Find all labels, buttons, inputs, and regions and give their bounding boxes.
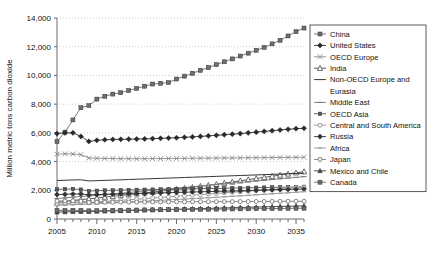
- x-tick-label: 2005: [48, 227, 66, 236]
- data-point-marker: [71, 187, 74, 190]
- data-point-marker: [278, 38, 282, 42]
- data-point-marker: [103, 200, 107, 204]
- data-point-marker: [79, 199, 83, 203]
- data-point-marker: [159, 208, 163, 212]
- data-point-marker: [167, 81, 171, 85]
- legend-label: Central and South America: [330, 121, 422, 130]
- legend-label: Non-OECD Europe and: [330, 75, 410, 84]
- data-point-marker: [182, 74, 186, 78]
- y-axis-title: Million metric tons carbon dioxide: [5, 59, 14, 178]
- data-point-marker: [238, 200, 242, 204]
- data-point-marker: [238, 131, 243, 136]
- series-line: [57, 128, 304, 141]
- data-point-marker: [159, 200, 163, 204]
- data-point-marker: [159, 195, 163, 199]
- x-tick-label: 2030: [247, 227, 265, 236]
- data-point-marker: [206, 207, 210, 211]
- data-point-marker: [102, 137, 107, 142]
- series-oecd-europe: [55, 151, 307, 161]
- data-point-marker: [174, 135, 179, 140]
- data-point-marker: [270, 207, 274, 211]
- data-point-marker: [206, 200, 210, 204]
- data-point-marker: [79, 208, 83, 212]
- data-point-marker: [111, 200, 115, 204]
- data-point-marker: [318, 32, 322, 36]
- series-line: [57, 201, 304, 203]
- data-point-marker: [270, 42, 274, 46]
- data-point-marker: [135, 208, 139, 212]
- data-point-marker: [318, 123, 322, 127]
- data-point-marker: [175, 77, 179, 81]
- data-point-marker: [87, 209, 91, 213]
- data-point-marker: [238, 54, 242, 58]
- emissions-line-chart: 02,0004,0006,0008,00010,00012,00014,0002…: [0, 0, 430, 256]
- data-point-marker: [142, 136, 147, 141]
- data-point-marker: [63, 199, 67, 203]
- data-point-marker: [55, 139, 59, 143]
- series-line: [57, 208, 304, 211]
- y-tick-label: 14,000: [27, 14, 52, 23]
- data-point-marker: [63, 187, 66, 190]
- data-point-marker: [111, 208, 115, 212]
- series-line: [57, 172, 304, 203]
- data-point-marker: [230, 207, 234, 211]
- y-axis-title-text: Million metric tons carbon dioxide: [5, 59, 14, 178]
- data-point-marker: [278, 199, 282, 203]
- data-point-marker: [143, 84, 147, 88]
- y-tick-label: 12,000: [27, 43, 52, 52]
- data-point-marker: [102, 192, 107, 197]
- series-united-states: [54, 126, 306, 144]
- data-point-marker: [143, 200, 147, 204]
- legend-label: India: [330, 64, 347, 73]
- data-point-marker: [318, 180, 322, 184]
- data-point-marker: [126, 137, 131, 142]
- data-point-marker: [94, 138, 99, 143]
- data-point-marker: [159, 81, 163, 85]
- legend-item[interactable]: Central and South America: [314, 121, 422, 130]
- data-point-marker: [79, 188, 82, 191]
- legend-label: Mexico and Chile: [330, 167, 388, 176]
- data-point-marker: [222, 207, 226, 211]
- gridlines: [57, 18, 304, 190]
- data-point-marker: [86, 192, 91, 197]
- series-line: [57, 154, 304, 159]
- data-point-marker: [302, 26, 306, 30]
- data-point-marker: [134, 136, 139, 141]
- legend-label: OECD Asia: [330, 110, 369, 119]
- data-point-marker: [198, 207, 202, 211]
- series-lines: [54, 26, 306, 214]
- data-point-marker: [94, 192, 99, 197]
- data-point-marker: [55, 199, 59, 203]
- legend-label: China: [330, 30, 351, 39]
- data-point-marker: [262, 199, 266, 203]
- data-point-marker: [286, 199, 290, 203]
- y-tick-label: 6,000: [31, 129, 52, 138]
- data-point-marker: [214, 133, 219, 138]
- data-point-marker: [111, 92, 115, 96]
- data-point-marker: [190, 134, 195, 139]
- x-tick-label: 2035: [287, 227, 305, 236]
- legend-label: Japan: [330, 155, 351, 164]
- data-point-marker: [206, 66, 210, 70]
- data-point-marker: [190, 207, 194, 211]
- x-tick-label: 2020: [168, 227, 186, 236]
- x-tick-label: 2010: [88, 227, 106, 236]
- data-point-marker: [230, 200, 234, 204]
- data-point-marker: [277, 127, 282, 132]
- data-point-marker: [95, 209, 99, 213]
- data-point-marker: [143, 208, 147, 212]
- data-point-marker: [182, 200, 186, 204]
- data-point-marker: [198, 200, 202, 204]
- data-point-marker: [214, 200, 218, 204]
- data-point-marker: [79, 106, 83, 110]
- legend-item[interactable]: Eurasia: [330, 87, 357, 96]
- data-point-marker: [294, 199, 298, 203]
- legend-label: Middle East: [330, 98, 371, 107]
- data-point-marker: [158, 136, 163, 141]
- data-point-marker: [54, 131, 59, 136]
- data-point-marker: [254, 48, 258, 52]
- y-tick-label: 0: [47, 215, 52, 224]
- data-point-marker: [119, 200, 123, 204]
- data-point-marker: [127, 89, 131, 93]
- data-point-marker: [222, 60, 226, 64]
